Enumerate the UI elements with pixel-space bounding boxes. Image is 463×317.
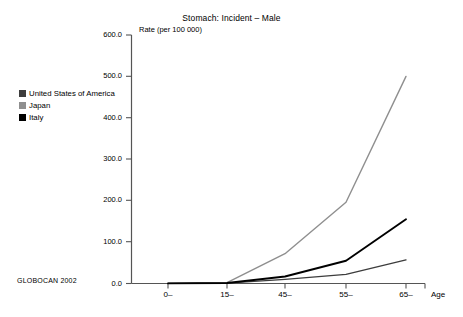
x-tick-label: 65– <box>386 290 426 299</box>
x-tick-label: 0– <box>148 290 188 299</box>
y-tick-label: 300.0 <box>88 154 122 163</box>
x-tick-label: 55– <box>326 290 366 299</box>
x-tick-label: 15– <box>207 290 247 299</box>
y-tick-label: 0.0 <box>88 279 122 288</box>
chart-legend: United States of America Japan Italy <box>19 88 115 124</box>
legend-label: United States of America <box>29 89 115 98</box>
legend-label: Japan <box>29 101 50 110</box>
series-line-japan <box>168 76 406 283</box>
x-tick-label: 45– <box>265 290 305 299</box>
legend-swatch-icon <box>19 114 26 121</box>
y-tick-label: 100.0 <box>88 237 122 246</box>
x-tick-marks <box>168 284 425 289</box>
data-series-layer <box>168 76 406 283</box>
chart-plot-area <box>0 0 463 317</box>
legend-swatch-icon <box>19 90 26 97</box>
legend-item-united-states-of-america: United States of America <box>19 88 115 99</box>
legend-swatch-icon <box>19 102 26 109</box>
y-tick-label: 200.0 <box>88 195 122 204</box>
x-axis-label: Age <box>431 290 445 299</box>
chart-figure: Stomach: Incident – Male Rate (per 100 0… <box>0 0 463 317</box>
series-line-united-states-of-america <box>168 260 406 283</box>
y-tick-label: 600.0 <box>88 30 122 39</box>
legend-item-japan: Japan <box>19 100 115 111</box>
legend-label: Italy <box>29 113 43 122</box>
y-tick-marks <box>126 35 132 284</box>
axis-lines <box>132 35 426 284</box>
legend-item-italy: Italy <box>19 112 115 123</box>
chart-title: Stomach: Incident – Male <box>0 13 463 23</box>
y-tick-label: 500.0 <box>88 71 122 80</box>
y-axis-label: Rate (per 100 000) <box>139 25 202 34</box>
source-note: GLOBOCAN 2002 <box>17 277 77 284</box>
